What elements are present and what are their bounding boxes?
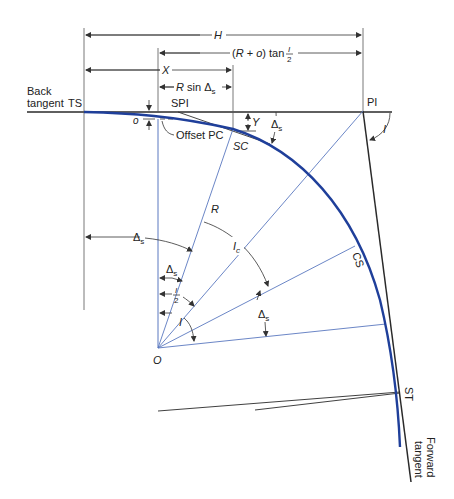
pi-label: PI bbox=[367, 96, 377, 108]
r-label: R bbox=[211, 203, 219, 215]
offset-pc-label: Offset PC bbox=[176, 129, 224, 141]
forward-tangent-label-2: tangent bbox=[413, 441, 425, 478]
tan-fraction-den: 2 bbox=[287, 55, 292, 64]
spiral-curve-diagram: H (R + o) tan I 2 X R sin Δs Back tangen… bbox=[0, 0, 454, 499]
tan-label: (R + o) tan bbox=[232, 47, 284, 59]
i-o-label: I bbox=[179, 316, 182, 328]
back-tangent-label-2: tangent bbox=[27, 97, 64, 109]
half-i-arc bbox=[183, 297, 194, 306]
i-pi-arc bbox=[370, 113, 390, 140]
i-o-arc bbox=[184, 318, 194, 341]
spiral-curve bbox=[84, 112, 400, 447]
ts-label: TS bbox=[68, 97, 82, 109]
delta-s-cs-label: Δs bbox=[258, 308, 269, 323]
st-label: ST bbox=[403, 387, 415, 401]
half-i-den: 2 bbox=[174, 296, 179, 305]
spi-label: SPI bbox=[171, 97, 189, 109]
delta-s-o-right bbox=[172, 278, 182, 281]
delta-s-cs-bottom bbox=[265, 322, 266, 336]
i-pi-label: I bbox=[383, 123, 386, 135]
forward-tangent-label-1: Forward bbox=[425, 437, 437, 477]
radial-to-forward bbox=[158, 324, 386, 348]
h-label: H bbox=[214, 29, 222, 41]
sc-label: SC bbox=[233, 140, 248, 152]
x-label: X bbox=[161, 64, 170, 76]
forward-tangent-line bbox=[363, 111, 411, 482]
y-label: Y bbox=[252, 116, 260, 128]
o-center-label: O bbox=[153, 354, 162, 366]
back-tangent-label-1: Back bbox=[27, 85, 52, 97]
st-perpendicular bbox=[158, 392, 400, 411]
delta-s-big-label: Δs bbox=[133, 231, 144, 246]
delta-s-o-label: Δs bbox=[166, 263, 177, 278]
o-label: o bbox=[133, 115, 139, 126]
offset-pc-leader bbox=[162, 121, 174, 135]
delta-s-big-arc bbox=[145, 238, 192, 251]
